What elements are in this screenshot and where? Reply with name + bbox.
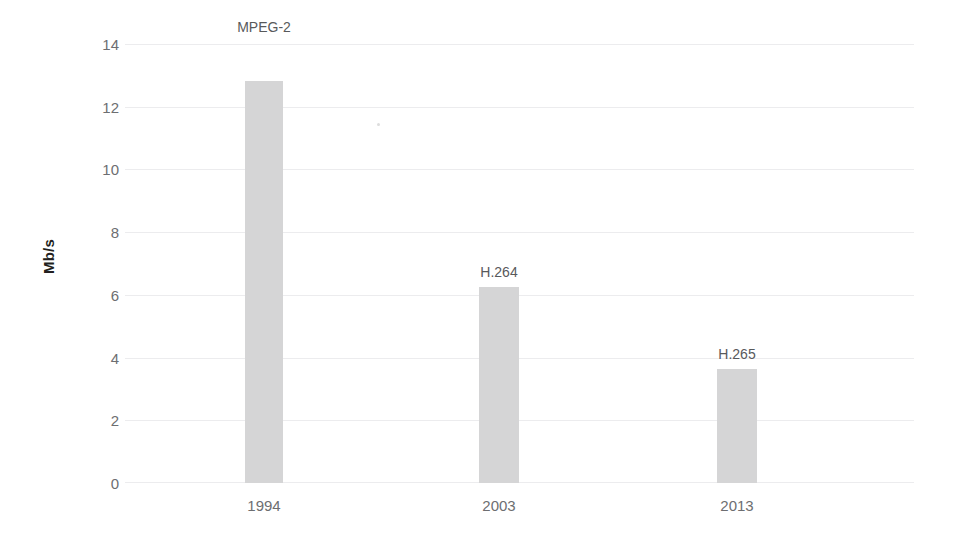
bar[interactable] [245,81,283,483]
bar-chart: Mb/s 14 12 10 8 6 4 2 0 MPEG-2 H.264 H.2… [0,0,955,547]
y-tick-label: 14 [73,36,119,53]
bar-label: MPEG-2 [237,19,291,35]
bar[interactable] [717,369,757,484]
x-tick-label: 2003 [482,497,515,514]
y-tick-label: 0 [73,475,119,492]
gridline [125,44,914,45]
y-tick-label: 12 [73,98,119,115]
x-tick-label: 1994 [247,497,280,514]
gridline [125,295,914,296]
y-tick-label: 10 [73,161,119,178]
y-tick-label: 2 [73,412,119,429]
y-tick-label: 4 [73,349,119,366]
plot-area: MPEG-2 H.264 H.265 [125,44,914,483]
image-artifact-speck [377,123,380,126]
bar-label: H.264 [480,264,517,280]
x-tick-label: 2013 [720,497,753,514]
y-tick-label: 6 [73,286,119,303]
bar[interactable] [479,287,519,483]
gridline [125,169,914,170]
gridline [125,107,914,108]
y-axis-title: Mb/s [40,227,57,287]
axis-baseline [125,482,914,483]
bar-label: H.265 [718,346,755,362]
y-tick-label: 8 [73,224,119,241]
gridline [125,358,914,359]
gridline [125,232,914,233]
gridline [125,420,914,421]
y-axis-tick-labels: 14 12 10 8 6 4 2 0 [61,44,119,483]
